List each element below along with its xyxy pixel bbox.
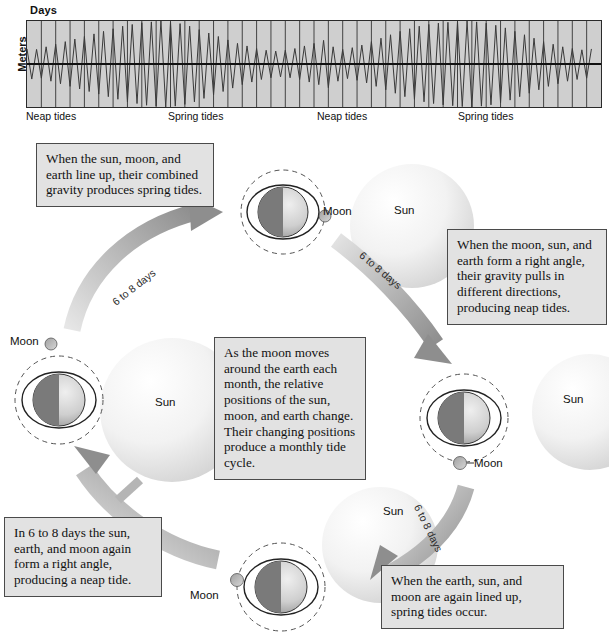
moon-body-bottom	[231, 574, 244, 587]
callout-spring-tides-bottom-right: When the earth, sun, and moon are again …	[381, 565, 564, 629]
callout-monthly-tide-cycle: As the moon moves around the earth each …	[214, 337, 366, 480]
label-moon-left: Moon	[10, 335, 39, 347]
earth-night-side-right	[438, 392, 464, 444]
earth-moon-system-left	[15, 338, 103, 444]
label-sun-arrow: Sun	[383, 505, 403, 517]
label-moon-right: Moon	[474, 457, 503, 469]
callout-spring-tides-top-left: When the sun, moon, and earth line up, t…	[36, 143, 214, 207]
earth-moon-system-right	[420, 374, 508, 470]
moon-body-left	[45, 338, 57, 350]
earth-moon-system-bottom	[231, 543, 326, 631]
earth-night-side-left	[33, 374, 59, 426]
label-moon-bottom: Moon	[190, 589, 219, 601]
label-sun-right: Sun	[563, 393, 583, 405]
moon-body-right	[454, 457, 467, 470]
callout-neap-tide-bottom-left: In 6 to 8 days the sun, earth, and moon …	[4, 517, 162, 597]
label-moon-top: Moon	[323, 205, 352, 217]
earth-night-side-bottom	[255, 561, 281, 613]
label-sun-center: Sun	[155, 396, 175, 408]
earth-night-side-top	[258, 187, 283, 237]
earth-moon-system-top	[241, 170, 331, 254]
diagram-canvas: Days Meters Neap tides Spring tides Neap…	[0, 0, 609, 643]
callout-neap-tides-right: When the moon, sun, and earth form a rig…	[447, 229, 607, 325]
label-sun-top: Sun	[394, 204, 414, 216]
